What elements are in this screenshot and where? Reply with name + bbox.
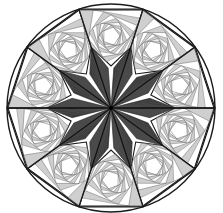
rosette-figure — [0, 0, 223, 213]
rosette-svg — [0, 0, 223, 213]
center-point — [109, 106, 113, 110]
